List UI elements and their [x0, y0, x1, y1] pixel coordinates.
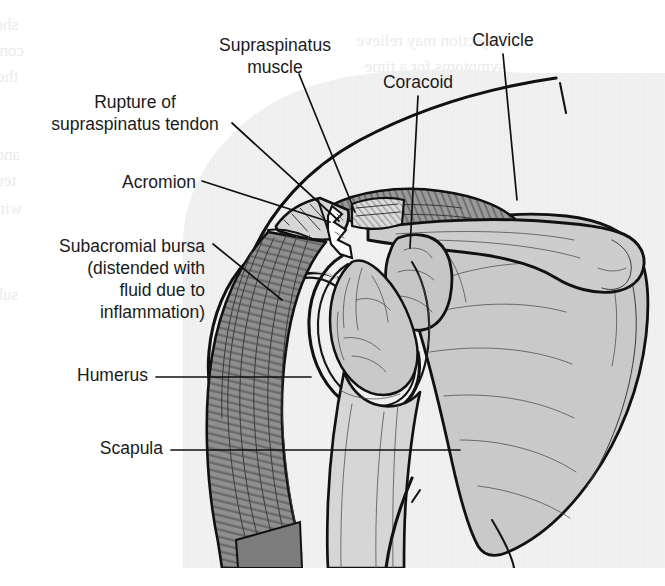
bleed-through-line: compensatory movements of the scapula [0, 41, 24, 60]
label-line: supraspinatus tendon [51, 114, 218, 134]
label-acromion: Acromion [122, 172, 196, 192]
supraspinatus-tendon-stump [352, 198, 404, 229]
bleed-through-line: with advancing age [0, 199, 22, 218]
label-line: inflammation) [100, 302, 205, 322]
label-clavicle: Clavicle [472, 30, 533, 50]
label-line: Rupture of [94, 92, 176, 112]
tendon-stump-shape [352, 198, 404, 229]
label-line: fluid due to [119, 280, 205, 300]
label-line: Subacromial bursa [59, 236, 205, 256]
label-line: Supraspinatus [219, 35, 331, 55]
figure-canvas: shoulder and chest wall muscles are invo… [0, 0, 665, 586]
bleed-through-line: shoulder and chest wall muscles are invo… [0, 15, 18, 34]
label-line: muscle [247, 57, 302, 77]
bleed-through-line: subacromial space narrows [0, 285, 18, 304]
bleed-through-line: and severe pain on abduction [0, 145, 20, 164]
label-coracoid: Coracoid [383, 72, 453, 92]
shoulder-anatomy-figure: shoulder and chest wall muscles are invo… [0, 0, 665, 586]
label-humerus: Humerus [77, 365, 148, 385]
label-line: Scapula [100, 438, 164, 458]
label-line: Coracoid [383, 72, 453, 92]
label-line: Clavicle [472, 30, 533, 50]
bleed-through-line: the rotator cuff is the main stabiliser [0, 67, 18, 86]
bleed-through-line: tendon degeneration increases [0, 171, 16, 190]
label-scapula: Scapula [100, 438, 164, 458]
label-line: (distended with [87, 258, 205, 278]
label-line: Humerus [77, 365, 148, 385]
label-line: Acromion [122, 172, 196, 192]
